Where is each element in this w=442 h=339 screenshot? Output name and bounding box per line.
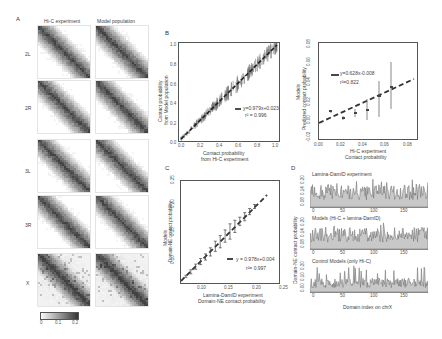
d-xtick: 50 (340, 293, 345, 298)
heatmap-3r-hic (37, 195, 91, 249)
panel-a-letter: A (16, 16, 20, 22)
d-xtick: 50 (340, 250, 345, 255)
d-xlabel: Domain index on chrX (343, 304, 392, 310)
heatmap-3l-model (95, 139, 149, 193)
c-xlabel-2: Domain-NE contact probability (198, 298, 266, 304)
colorbar-tick-0: 0 (40, 320, 43, 325)
heatmap-3r-model (95, 195, 149, 249)
c-xtick: 0.25 (279, 285, 288, 290)
c-xtick: 0.10 (197, 285, 206, 290)
d-title-2: Models (Hi-C + lamina-DamID) (312, 215, 380, 221)
scatter-b (179, 43, 279, 141)
b2-xtick: 0.08 (403, 142, 412, 147)
d-ytick: 0.20 (300, 261, 305, 270)
b-ytick: 1.0 (170, 42, 176, 47)
d-xtick: 0 (312, 293, 315, 298)
c-xtick: 0.15 (224, 285, 233, 290)
c-ytick: 0.25 (170, 175, 175, 184)
panel-c-letter: C (165, 165, 169, 171)
b2-ytick: 0.06 (306, 57, 311, 66)
b-ylabel-2: from Model population (163, 76, 169, 125)
d-xtick: 0 (312, 208, 315, 213)
d-xtick: 0 (312, 250, 315, 255)
colorbar (40, 312, 79, 320)
plot-area-b2 (318, 42, 418, 140)
d-xtick: 150 (400, 293, 408, 298)
d-ytick: 0.20 (300, 217, 305, 226)
d-ytick: 0.00 (300, 283, 305, 292)
colorbar-tick-1: 0.1 (55, 320, 61, 325)
d-xtick: 100 (370, 250, 378, 255)
d-xtick: 150 (400, 208, 408, 213)
d-xtick: 100 (370, 293, 378, 298)
d-ytick: 0.20 (300, 175, 305, 184)
d-area-3 (310, 264, 428, 292)
b-r2: r² = 0.996 (245, 112, 267, 118)
heatmap-x-model (95, 253, 149, 307)
heatmap-2r-model (95, 80, 149, 134)
b-xtick: 0.0 (178, 143, 184, 148)
d-title-1: Lamina-DamID experiment (312, 171, 372, 177)
d-ytick: 0.08 (300, 197, 305, 206)
heatmap-2l-hic (37, 25, 91, 79)
b2-equation: y=0.628x-0.008 (340, 70, 375, 76)
b-ytick: 0.8 (170, 62, 176, 67)
c-xtick: 0.20 (252, 285, 261, 290)
b2-xtick: 0.06 (380, 142, 389, 147)
col-header-model: Model population (97, 18, 135, 24)
heatmap-2r-hic (37, 80, 91, 134)
row-label-3l: 3L (25, 168, 31, 174)
b2-ytick: -0.02 (306, 132, 311, 142)
colorbar-tick-2: 0.2 (72, 320, 78, 325)
b2-r2: r²=0.822 (340, 79, 359, 85)
col-header-hic: Hi-C experiment (44, 18, 80, 24)
b-xtick: 0.4 (216, 143, 222, 148)
b-xtick: 1.0 (272, 143, 278, 148)
row-label-x: X (26, 280, 29, 286)
heatmap-3l-hic (37, 139, 91, 193)
heatmap-x-hic (37, 253, 91, 307)
c-equation: y = 0.978x+0.004 (236, 256, 275, 262)
panel-b-letter: B (165, 30, 169, 36)
b2-ylabel-2: Predicted contact probability (301, 67, 307, 130)
b-ytick: 0.0 (170, 140, 176, 145)
d-ytick: 0.10 (300, 272, 305, 281)
scatter-b2 (319, 43, 417, 139)
b-xtick: 0.6 (235, 143, 241, 148)
row-label-2l: 2L (25, 51, 31, 57)
row-label-3r: 3R (25, 222, 31, 228)
d-xtick: 150 (400, 250, 408, 255)
b-ytick: 0.2 (170, 121, 176, 126)
d-ytick: 0.14 (300, 186, 305, 195)
b-xlabel-2: from Hi-C experiment (201, 156, 249, 162)
b2-xlabel-2: Contact probability (345, 154, 386, 160)
row-label-2r: 2R (25, 105, 31, 111)
d-area-1 (310, 178, 428, 207)
b2-xtick: 0.04 (358, 142, 367, 147)
plot-area-b (178, 42, 280, 142)
d-xtick: 100 (370, 208, 378, 213)
d-plot-3 (310, 264, 428, 293)
b-ytick: 0.6 (170, 82, 176, 87)
d-plot-2 (310, 222, 428, 250)
b-equation: y=0.979x+0.023 (243, 105, 279, 111)
d-ylabel: Domain-NE contact probability (292, 216, 298, 284)
b-xtick: 0.8 (254, 143, 260, 148)
b2-xtick: 0.00 (314, 142, 323, 147)
b-xtick: 0.2 (197, 143, 203, 148)
b2-xtick: 0.02 (336, 142, 345, 147)
c-ylabel-2: Domain-NE contact probability (168, 201, 173, 262)
panel-d-letter: D (291, 165, 295, 171)
d-ytick: 0.08 (300, 239, 305, 248)
d-ytick: 0.14 (300, 228, 305, 237)
d-plot-1 (310, 178, 428, 208)
b2-ytick: 0.08 (306, 39, 311, 48)
b-ytick: 0.4 (170, 101, 176, 106)
c-r2: r²= 0.997 (246, 265, 266, 271)
d-xtick: 50 (340, 208, 345, 213)
heatmap-2l-model (95, 25, 149, 79)
d-area-2 (310, 222, 428, 249)
